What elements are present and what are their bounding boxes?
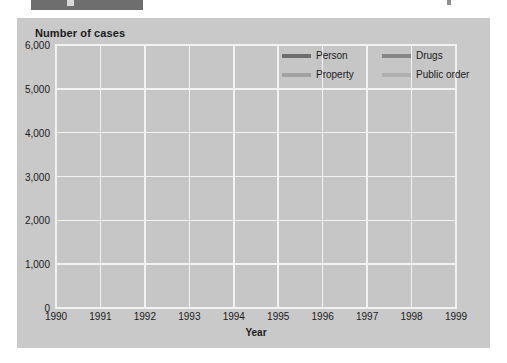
gridline-vertical (100, 45, 102, 308)
gridline-vertical (322, 45, 324, 308)
plot-area (55, 45, 457, 308)
x-tick-label: 1996 (312, 311, 334, 322)
gridline-vertical (455, 45, 457, 308)
y-tick-label: 4,000 (25, 127, 50, 138)
gridline-horizontal (55, 307, 457, 309)
x-tick-label: 1998 (400, 311, 422, 322)
legend-swatch-icon (282, 54, 311, 58)
legend-item-person: Person (282, 50, 382, 61)
x-axis-tick-labels: 1990199119921993199419951996199719981999 (55, 311, 457, 325)
x-axis-title: Year (55, 327, 457, 338)
legend-swatch-icon (382, 54, 411, 58)
gridline-horizontal (55, 263, 457, 265)
header-tick-right (447, 0, 451, 5)
x-tick-label: 1995 (267, 311, 289, 322)
y-tick-label: 1,000 (25, 259, 50, 270)
gridline-vertical (277, 45, 279, 308)
gridline-horizontal (55, 132, 457, 134)
chart-figure-panel: Number of cases 01,0002,0003,0004,0005,0… (17, 18, 490, 348)
y-axis-tick-labels: 01,0002,0003,0004,0005,0006,000 (17, 45, 50, 308)
chart-legend: PersonDrugsPropertyPublic order (282, 46, 482, 84)
gridline-vertical (233, 45, 235, 308)
x-tick-label: 1992 (134, 311, 156, 322)
legend-item-drugs: Drugs (382, 50, 482, 61)
legend-label: Property (316, 69, 354, 80)
gridline-vertical (55, 45, 57, 308)
gridline-horizontal (55, 88, 457, 90)
x-tick-label: 1990 (45, 311, 67, 322)
legend-label: Drugs (416, 50, 443, 61)
legend-swatch-icon (282, 73, 311, 77)
x-tick-label: 1993 (178, 311, 200, 322)
gridline-horizontal (55, 176, 457, 178)
legend-swatch-icon (382, 73, 411, 77)
y-tick-label: 5,000 (25, 83, 50, 94)
y-tick-label: 3,000 (25, 171, 50, 182)
x-tick-label: 1999 (445, 311, 467, 322)
legend-item-public-order: Public order (382, 69, 482, 80)
gridline-vertical (411, 45, 413, 308)
x-tick-label: 1991 (89, 311, 111, 322)
x-tick-label: 1997 (356, 311, 378, 322)
gridline-vertical (366, 45, 368, 308)
gridline-horizontal (55, 220, 457, 222)
y-tick-label: 2,000 (25, 215, 50, 226)
legend-item-property: Property (282, 69, 382, 80)
y-axis-title: Number of cases (35, 27, 125, 39)
page-header-fragment (0, 0, 507, 13)
y-tick-label: 6,000 (25, 40, 50, 51)
header-bar (31, 0, 143, 10)
header-bar-notch (67, 0, 74, 6)
x-tick-label: 1994 (223, 311, 245, 322)
gridline-vertical (144, 45, 146, 308)
legend-label: Public order (416, 69, 469, 80)
legend-label: Person (316, 50, 348, 61)
gridline-vertical (189, 45, 191, 308)
